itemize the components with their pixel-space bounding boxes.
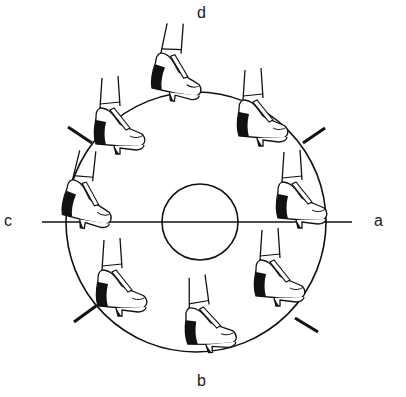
shoe-icon-lower-left — [97, 238, 147, 316]
label-bottom: b — [197, 373, 206, 389]
label-top: d — [197, 5, 206, 21]
tick-mark-upper-right — [303, 128, 325, 143]
label-right: a — [374, 213, 383, 229]
shoe-icon-upper-right — [238, 68, 288, 146]
tick-mark-upper-left — [68, 127, 92, 143]
shoe-icon-right — [277, 150, 327, 228]
label-left: c — [4, 213, 12, 229]
shoe-icon-left — [59, 147, 122, 233]
shoe-icon-lower-right — [255, 228, 305, 306]
shoe-icon-top — [149, 20, 210, 104]
foot-rotation-diagram — [0, 0, 406, 397]
tick-mark-lower-right — [295, 318, 318, 332]
shoe-icon-bottom — [182, 273, 238, 354]
shoe-icon-upper-left — [95, 76, 145, 154]
tick-mark-lower-left — [74, 306, 96, 322]
